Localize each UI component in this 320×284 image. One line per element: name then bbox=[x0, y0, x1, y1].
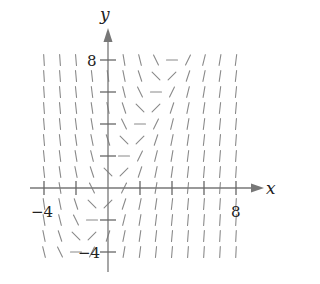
slope-segment bbox=[75, 87, 76, 98]
slope-segment bbox=[123, 215, 126, 226]
slope-segment bbox=[139, 55, 142, 66]
slope-segment bbox=[44, 135, 45, 146]
slope-segment bbox=[172, 231, 173, 242]
slope-segment bbox=[203, 151, 204, 162]
slope-segment bbox=[59, 167, 61, 178]
slope-segment bbox=[236, 151, 237, 162]
slope-segment bbox=[43, 247, 46, 258]
x-axis-arrow-icon bbox=[251, 184, 264, 193]
slope-segment bbox=[123, 247, 125, 258]
axes bbox=[30, 28, 264, 272]
slope-segment bbox=[203, 135, 204, 146]
slope-segment bbox=[187, 119, 189, 130]
y-axis-arrow-icon bbox=[104, 28, 113, 42]
slope-segment bbox=[72, 232, 80, 240]
slope-segment bbox=[168, 72, 176, 80]
slope-segment bbox=[220, 135, 221, 146]
slope-segment bbox=[171, 167, 173, 178]
slope-segment bbox=[88, 200, 96, 208]
slope-segment bbox=[219, 119, 220, 130]
slope-segment bbox=[74, 215, 79, 225]
slope-segment bbox=[188, 231, 189, 242]
slope-segment bbox=[60, 55, 61, 66]
slope-segment bbox=[154, 119, 159, 129]
slope-segment bbox=[204, 247, 205, 258]
slope-segment bbox=[58, 247, 63, 257]
slope-segment bbox=[155, 247, 156, 258]
slope-segment bbox=[203, 119, 204, 130]
slope-segment bbox=[203, 87, 205, 98]
slope-segment bbox=[188, 199, 189, 210]
slope-segment bbox=[219, 55, 221, 66]
slope-segment bbox=[186, 71, 189, 81]
slope-segment bbox=[122, 119, 127, 129]
slope-segment bbox=[123, 231, 125, 242]
slope-segment bbox=[76, 55, 77, 66]
slope-segments bbox=[43, 55, 237, 258]
slope-segment bbox=[154, 135, 157, 145]
slope-segment bbox=[170, 87, 175, 97]
slope-segment bbox=[171, 119, 174, 130]
slope-segment bbox=[120, 168, 128, 176]
slope-segment bbox=[187, 151, 188, 162]
slope-segment bbox=[171, 135, 173, 146]
slope-segment bbox=[91, 71, 92, 82]
slope-segment bbox=[91, 151, 94, 162]
slope-segment bbox=[76, 71, 77, 82]
y-tick-label-neg4: −4 bbox=[78, 244, 100, 262]
slope-segment bbox=[170, 103, 173, 113]
slope-segment bbox=[75, 151, 77, 162]
slope-segment bbox=[155, 167, 157, 178]
slope-segment bbox=[123, 55, 125, 66]
slope-segment bbox=[220, 247, 221, 258]
slope-segment bbox=[188, 247, 189, 258]
slope-segment bbox=[136, 104, 144, 112]
slope-segment bbox=[154, 55, 159, 65]
slope-segment bbox=[219, 103, 220, 114]
slope-segment bbox=[60, 87, 61, 98]
slope-segment bbox=[120, 136, 128, 144]
slope-segment bbox=[138, 151, 143, 161]
slope-segment bbox=[44, 119, 45, 130]
slope-segment bbox=[138, 71, 141, 81]
slope-segment bbox=[203, 71, 205, 82]
slope-segment bbox=[122, 199, 125, 209]
slope-segment bbox=[188, 215, 189, 226]
slope-segment bbox=[203, 55, 206, 66]
slope-segment bbox=[219, 87, 220, 98]
slope-segment bbox=[122, 103, 125, 113]
slope-segment bbox=[171, 215, 172, 226]
slope-segment bbox=[139, 247, 140, 258]
slope-segment bbox=[44, 103, 45, 114]
slope-segment bbox=[75, 119, 76, 130]
slope-segment bbox=[139, 231, 141, 242]
slope-segment bbox=[43, 231, 45, 242]
x-axis-label: x bbox=[266, 178, 276, 198]
slope-segment bbox=[220, 199, 221, 210]
slope-segment bbox=[155, 231, 156, 242]
slope-segment bbox=[91, 135, 93, 146]
slope-segment bbox=[152, 72, 160, 80]
slope-segment bbox=[204, 199, 205, 210]
slope-segment bbox=[220, 167, 221, 178]
slope-segment bbox=[155, 199, 157, 210]
slope-segment bbox=[59, 119, 60, 130]
slope-segment bbox=[138, 87, 143, 97]
slope-segment bbox=[187, 167, 188, 178]
y-axis-label: y bbox=[99, 4, 110, 24]
slope-segment bbox=[58, 231, 61, 241]
slope-segment bbox=[59, 215, 62, 226]
slope-segment bbox=[44, 71, 45, 82]
slope-segment bbox=[60, 103, 61, 114]
slope-segment bbox=[236, 247, 237, 258]
slope-segment bbox=[204, 215, 205, 226]
slope-segment bbox=[75, 103, 76, 114]
slope-segment bbox=[155, 215, 156, 226]
slope-segment bbox=[123, 87, 126, 98]
slope-segment bbox=[136, 136, 144, 144]
slope-segment bbox=[75, 135, 77, 146]
slope-segment bbox=[44, 55, 45, 66]
slope-segment bbox=[236, 231, 237, 242]
slope-segment bbox=[59, 199, 61, 210]
slope-segment bbox=[187, 87, 190, 98]
